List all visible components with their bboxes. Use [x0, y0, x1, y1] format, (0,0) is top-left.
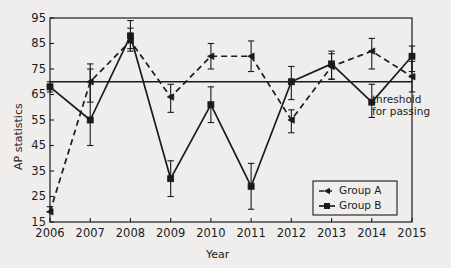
y-tick-label-35: 35 [18, 164, 46, 178]
marker-square [87, 117, 93, 123]
threshold-annotation: threshold for passing [372, 93, 430, 117]
legend-label-group-a: Group A [339, 184, 382, 196]
x-tick-label-2014: 2014 [356, 226, 388, 240]
x-tick-label-2012: 2012 [275, 226, 307, 240]
x-tick-label-2007: 2007 [74, 226, 106, 240]
threshold-annotation-line1: threshold [372, 93, 430, 105]
series-line-group-b [50, 36, 412, 186]
marker-square [168, 176, 174, 182]
marker-square [248, 183, 254, 189]
x-tick-label-2010: 2010 [195, 226, 227, 240]
x-axis-label: Year [206, 248, 229, 261]
y-tick-label-55: 55 [18, 113, 46, 127]
marker-square [208, 102, 214, 108]
x-tick-label-2015: 2015 [396, 226, 428, 240]
threshold-annotation-line2: for passing [372, 105, 430, 117]
y-tick-label-65: 65 [18, 87, 46, 101]
x-tick-label-2009: 2009 [155, 226, 187, 240]
legend-marker-square [324, 203, 330, 209]
marker-square [329, 61, 335, 67]
x-tick-label-2013: 2013 [316, 226, 348, 240]
marker-square [47, 84, 53, 90]
x-tick-label-2008: 2008 [114, 226, 146, 240]
marker-square [288, 79, 294, 85]
ap-statistics-line-chart: AP statistics Year 152535455565758595 20… [0, 0, 451, 268]
x-tick-label-2006: 2006 [34, 226, 66, 240]
y-tick-label-45: 45 [18, 138, 46, 152]
y-tick-label-25: 25 [18, 189, 46, 203]
y-tick-label-85: 85 [18, 36, 46, 50]
y-tick-label-75: 75 [18, 62, 46, 76]
x-tick-label-2011: 2011 [235, 226, 267, 240]
legend-label-group-b: Group B [339, 199, 382, 211]
marker-square [409, 53, 415, 59]
marker-square [127, 33, 133, 39]
y-tick-label-95: 95 [18, 11, 46, 25]
